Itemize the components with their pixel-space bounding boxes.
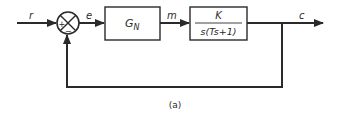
error-label: e — [86, 10, 92, 21]
feedback-path — [67, 23, 282, 87]
plant-denominator: s(Ts+1) — [201, 26, 237, 37]
block-diagram: r + − e GN m K s(Ts+1) c (a) — [0, 0, 340, 116]
control-label: m — [167, 10, 177, 21]
input-label: r — [29, 10, 34, 21]
output-label: c — [299, 10, 305, 21]
figure-caption: (a) — [169, 100, 182, 110]
minus-sign: − — [65, 27, 72, 36]
summing-junction: + − — [57, 12, 79, 36]
